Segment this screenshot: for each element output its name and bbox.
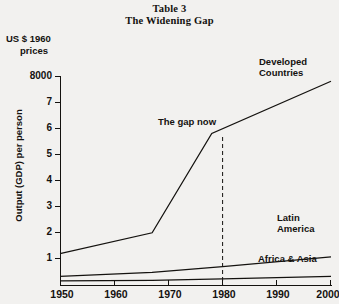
- chart-figure: Table 3 The Widening Gap US $ 1960 price…: [0, 0, 339, 304]
- series-label-africa-asia: Africa & Asia: [258, 253, 317, 264]
- series-label-latin-line2: America: [277, 223, 315, 234]
- gap-now-annotation-label: The gap now: [158, 116, 216, 127]
- series-label-developed-line1: Developed: [259, 56, 307, 67]
- series-label-latin-line1: Latin: [277, 212, 300, 223]
- leader-line-developed: [258, 80, 331, 82]
- series-label-latin-america: Latin America: [277, 212, 315, 234]
- series-label-developed-line2: Countries: [259, 67, 303, 78]
- series-label-developed-countries: Developed Countries: [259, 56, 307, 78]
- series-line-africa-asia: [60, 276, 331, 280]
